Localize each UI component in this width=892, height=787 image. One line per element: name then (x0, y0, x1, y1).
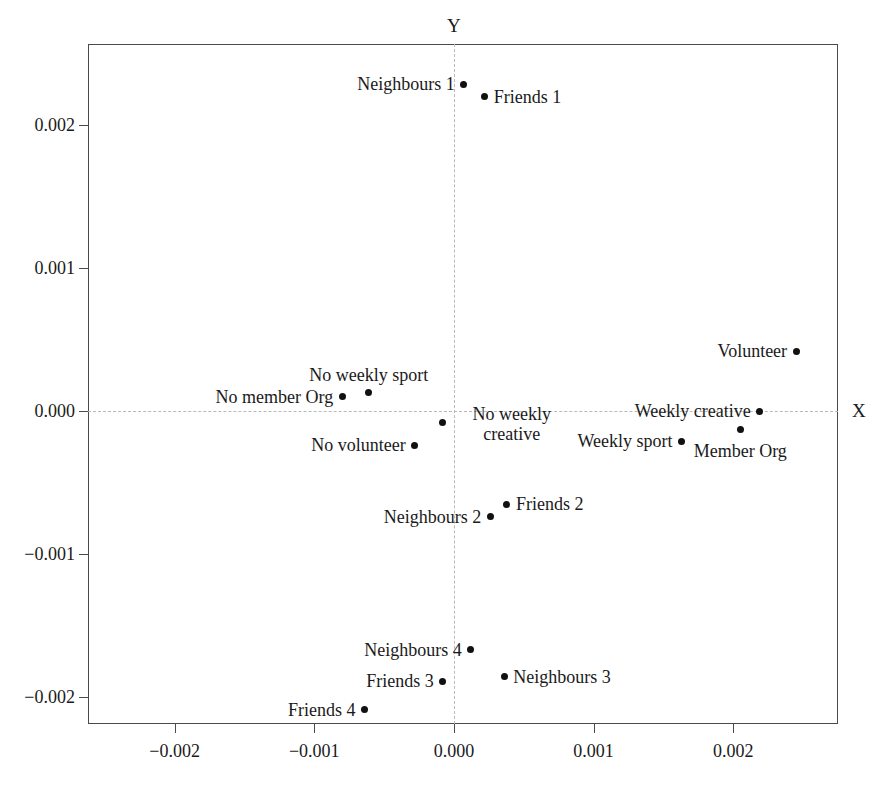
data-point-label: Volunteer (717, 341, 787, 361)
data-point-label: Neighbours 1 (357, 74, 455, 94)
data-point-label: Friends 3 (366, 671, 434, 691)
data-point-label: Weekly creative (635, 401, 751, 421)
x-tick-mark (314, 724, 315, 733)
data-point-label: Neighbours 3 (513, 667, 611, 687)
y-tick-mark (79, 411, 88, 412)
data-point-label: Friends 1 (494, 87, 562, 107)
data-point[interactable] (756, 408, 763, 415)
y-axis-label: Y (447, 16, 461, 35)
y-tick-label: 0.001 (35, 259, 76, 277)
data-point[interactable] (439, 678, 446, 685)
scatter-plot: Y X −0.002−0.0010.0000.0010.002 −0.002−0… (0, 0, 892, 787)
data-point[interactable] (460, 81, 467, 88)
x-tick-label: 0.001 (534, 742, 654, 760)
x-tick-label: −0.002 (115, 742, 235, 760)
x-tick-mark (454, 724, 455, 733)
data-point[interactable] (678, 438, 685, 445)
y-tick-mark (79, 125, 88, 126)
y-tick-mark (79, 697, 88, 698)
data-point[interactable] (793, 348, 800, 355)
x-axis-label: X (852, 401, 866, 420)
x-tick-label: 0.000 (394, 742, 514, 760)
data-point-label: Friends 4 (288, 700, 356, 720)
x-tick-mark (594, 724, 595, 733)
x-tick-mark (175, 724, 176, 733)
data-point-label: No volunteer (311, 435, 405, 455)
y-tick-label: −0.002 (24, 688, 75, 706)
data-point-label: Neighbours 2 (384, 507, 482, 527)
y-tick-label: −0.001 (24, 545, 75, 563)
data-point-label: Neighbours 4 (364, 640, 462, 660)
x-tick-label: 0.002 (673, 742, 793, 760)
data-point-label: Weekly sport (578, 431, 673, 451)
y-tick-label: 0.000 (35, 402, 76, 420)
data-point-label: No weekly creative (452, 404, 572, 444)
x-tick-label: −0.001 (254, 742, 374, 760)
x-tick-mark (733, 724, 734, 733)
y-tick-label: 0.002 (35, 116, 76, 134)
y-tick-mark (79, 554, 88, 555)
data-point[interactable] (737, 426, 744, 433)
y-tick-mark (79, 268, 88, 269)
data-point-label: No member Org (216, 387, 334, 407)
data-point-label: No weekly sport (219, 365, 519, 385)
data-point-label: Friends 2 (516, 494, 584, 514)
